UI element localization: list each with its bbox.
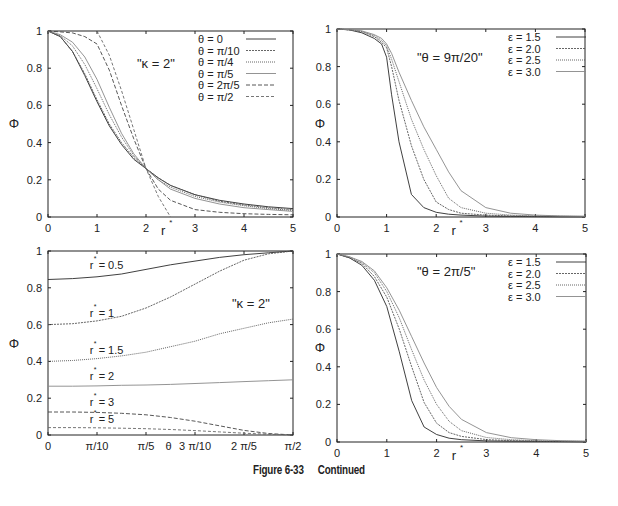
y-tick-label: 0 [325, 436, 331, 448]
y-tick-label: 0 [36, 429, 42, 441]
x-tick-label: 4 [241, 222, 247, 234]
y-tick-label: 1 [36, 245, 42, 257]
legend-label: ε = 2.0 [508, 268, 541, 280]
x-tick-label: 0 [334, 447, 340, 459]
series-line [48, 428, 293, 435]
legend-label: ε = 3.0 [508, 291, 541, 303]
curve-label-star: * [94, 255, 97, 262]
series-line [337, 254, 586, 442]
curve-label-star: * [94, 392, 97, 399]
x-axis-label: r [452, 448, 457, 463]
legend-label: θ = π/5 [198, 68, 233, 80]
series-line [337, 254, 586, 441]
x-axis-label-star: * [169, 218, 172, 227]
y-tick-label: 1 [325, 23, 331, 35]
x-tick-label: 3 π/10 [179, 440, 211, 452]
curve-label-star: * [94, 340, 97, 347]
y-axis-label: Φ [9, 116, 19, 131]
chart-bottom-left: 0π/10π/53 π/102 π/5π/200.20.40.60.81θΦ"κ… [9, 245, 302, 452]
series-line [48, 251, 293, 280]
y-axis-label: Φ [315, 340, 325, 355]
series-line [48, 412, 293, 435]
legend-label: θ = π/4 [198, 56, 233, 68]
legend-label: ε = 1.5 [508, 256, 541, 268]
legend-label: ε = 2.5 [508, 54, 541, 66]
chart-annotation: "κ = 2" [137, 56, 175, 71]
y-tick-label: 0.8 [316, 286, 331, 298]
y-tick-label: 0.4 [316, 361, 331, 373]
plot-frame [337, 254, 586, 442]
legend-label: θ = 0 [198, 33, 223, 45]
y-tick-label: 1 [325, 248, 331, 260]
y-tick-label: 0.8 [27, 282, 42, 294]
x-tick-label: 0 [45, 222, 51, 234]
y-axis-label: Φ [315, 116, 325, 131]
x-tick-label: 3 [483, 447, 489, 459]
y-tick-label: 0.2 [27, 174, 42, 186]
y-tick-label: 0.4 [27, 355, 42, 367]
x-tick-label: 2 [143, 222, 149, 234]
y-tick-label: 0 [36, 211, 42, 223]
legend-label: ε = 2.5 [508, 279, 541, 291]
caption-text: Continued [318, 463, 365, 477]
y-axis-label: Φ [9, 336, 19, 351]
y-tick-label: 0 [325, 211, 331, 223]
series-line [48, 380, 293, 386]
y-tick-label: 0.4 [316, 136, 331, 148]
legend-label: θ = 2π/5 [198, 79, 240, 91]
x-tick-label: 3 [483, 222, 489, 234]
chart-top-right: 01234500.20.40.60.81r*Φ"θ = 9π/20"ε = 1.… [315, 23, 588, 238]
curve-label-value: = 1 [99, 307, 115, 319]
curve-label-value: = 0.5 [99, 259, 124, 271]
series-line [337, 254, 586, 441]
x-axis-label-star: * [460, 443, 463, 452]
curve-label-star: * [94, 366, 97, 373]
x-tick-label: 2 π/5 [231, 440, 257, 452]
x-axis-label: r [451, 223, 456, 238]
y-tick-label: 0.8 [316, 61, 331, 73]
series-line [48, 319, 293, 361]
x-axis-label: θ [165, 440, 171, 452]
x-axis-label: r [161, 223, 166, 238]
x-tick-label: 4 [532, 222, 538, 234]
x-tick-label: 1 [384, 222, 390, 234]
curve-label-value: = 3 [99, 396, 115, 408]
x-tick-label: π/5 [138, 440, 155, 452]
legend-label: ε = 1.5 [508, 31, 541, 43]
y-tick-label: 0.4 [27, 137, 42, 149]
curve-label-star: * [94, 303, 97, 310]
curve-label-star: * [94, 409, 97, 416]
x-tick-label: 1 [94, 222, 100, 234]
chart-annotation: "κ = 2" [232, 296, 270, 311]
y-tick-label: 0.2 [316, 398, 331, 410]
curve-label-value: = 1.5 [99, 344, 124, 356]
legend-label: θ = π/2 [198, 91, 233, 103]
x-tick-label: 5 [583, 447, 589, 459]
y-tick-label: 0.6 [316, 323, 331, 335]
y-tick-label: 0.6 [27, 99, 42, 111]
x-tick-label: 2 [433, 222, 439, 234]
y-tick-label: 1 [36, 25, 42, 37]
series-line [48, 251, 293, 325]
chart-annotation: "θ = 9π/20" [417, 50, 483, 65]
figure-caption: Figure 6-33 Continued [56, 463, 563, 477]
chart-bottom-right: 01234500.20.40.60.81r*Φ"θ = 2π/5"ε = 1.5… [315, 248, 589, 463]
y-tick-label: 0.8 [27, 62, 42, 74]
curve-label-value: = 2 [99, 370, 115, 382]
x-tick-label: 4 [533, 447, 539, 459]
x-axis-label-star: * [460, 218, 463, 227]
legend-label: ε = 3.0 [508, 66, 541, 78]
x-tick-label: 0 [334, 222, 340, 234]
plot-frame [48, 251, 293, 435]
figure-6-33: 01234500.20.40.60.81r*Φ"κ = 2"θ = 0θ = π… [0, 0, 618, 506]
x-tick-label: 0 [45, 440, 51, 452]
curve-label-value: = 5 [99, 413, 115, 425]
chart-top-left: 01234500.20.40.60.81r*Φ"κ = 2"θ = 0θ = π… [9, 25, 296, 238]
x-tick-label: π/10 [86, 440, 109, 452]
y-tick-label: 0.2 [27, 392, 42, 404]
x-tick-label: 5 [290, 222, 296, 234]
x-tick-label: 1 [384, 447, 390, 459]
y-tick-label: 0.6 [27, 319, 42, 331]
series-line [337, 254, 586, 442]
x-tick-label: 3 [192, 222, 198, 234]
